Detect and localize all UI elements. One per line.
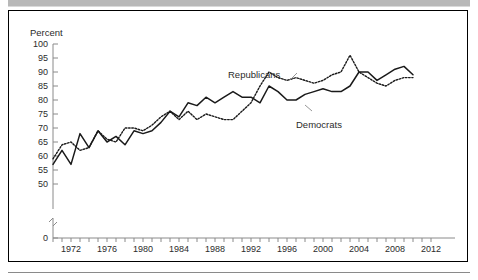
democrats-leader-line bbox=[305, 105, 312, 111]
y-tick-label: 70 bbox=[38, 123, 48, 133]
x-tick-label: 2012 bbox=[421, 244, 441, 254]
line-chart: Percent 050556065707580859095100 1972197… bbox=[0, 0, 478, 280]
x-tick-label: 1996 bbox=[277, 244, 297, 254]
x-tick-label: 1992 bbox=[241, 244, 261, 254]
series-line-democrats bbox=[53, 66, 413, 164]
x-tick-marks bbox=[53, 238, 431, 242]
y-axis-title: Percent bbox=[30, 27, 63, 38]
y-axis-break-marker bbox=[49, 218, 57, 226]
y-axis-group bbox=[49, 44, 58, 238]
y-tick-marks bbox=[53, 44, 58, 238]
y-tick-label: 80 bbox=[38, 95, 48, 105]
republicans-leader-line bbox=[290, 73, 297, 80]
x-tick-label: 1984 bbox=[169, 244, 189, 254]
y-tick-label: 55 bbox=[38, 165, 48, 175]
y-tick-label: 90 bbox=[38, 67, 48, 77]
y-tick-labels: 050556065707580859095100 bbox=[33, 39, 48, 243]
x-tick-labels: 1972197619801984198819921996200020042008… bbox=[61, 244, 441, 254]
y-tick-label: 75 bbox=[38, 109, 48, 119]
y-tick-label: 60 bbox=[38, 151, 48, 161]
chart-page: Percent 050556065707580859095100 1972197… bbox=[0, 0, 478, 280]
x-tick-label: 2000 bbox=[313, 244, 333, 254]
y-tick-label: 100 bbox=[33, 39, 48, 49]
x-tick-label: 1972 bbox=[61, 244, 81, 254]
x-tick-label: 2004 bbox=[349, 244, 369, 254]
x-tick-label: 1980 bbox=[133, 244, 153, 254]
y-tick-label: 50 bbox=[38, 179, 48, 189]
series-label-republicans: Republicans bbox=[228, 69, 281, 80]
x-axis-group bbox=[53, 238, 455, 242]
series-label-democrats: Democrats bbox=[296, 119, 342, 130]
y-tick-label: 65 bbox=[38, 137, 48, 147]
y-tick-label: 85 bbox=[38, 81, 48, 91]
y-tick-label: 0 bbox=[43, 233, 48, 243]
x-tick-label: 2008 bbox=[385, 244, 405, 254]
y-tick-label: 95 bbox=[38, 53, 48, 63]
x-tick-label: 1976 bbox=[97, 244, 117, 254]
x-tick-label: 1988 bbox=[205, 244, 225, 254]
